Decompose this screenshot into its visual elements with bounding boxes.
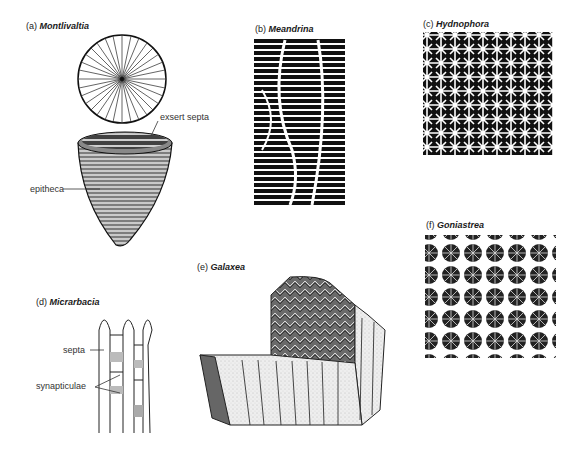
panel-b-label: (b) Meandrina: [255, 24, 314, 34]
figure-illustrations: [0, 0, 583, 454]
exsert-septa-label: exsert septa: [160, 112, 209, 122]
panel-a-genus: Montlivaltia: [40, 21, 90, 31]
panel-a-label: (a) Montlivaltia: [26, 21, 89, 31]
panel-f-genus: Goniastrea: [437, 220, 484, 230]
goniastrea-photo: [425, 235, 556, 358]
panel-b-genus: Meandrina: [269, 24, 314, 34]
hydnophora-photo: [423, 32, 553, 155]
panel-d-letter: (d): [36, 297, 47, 307]
panel-c-label: (c) Hydnophora: [423, 19, 489, 29]
panel-e-genus: Galaxea: [211, 262, 246, 272]
panel-b-letter: (b): [255, 24, 266, 34]
epitheca-label: epitheca: [30, 184, 64, 194]
panel-f-label: (f) Goniastrea: [426, 220, 484, 230]
panel-c-letter: (c): [423, 19, 434, 29]
exsert-septa-leader-line: [151, 121, 158, 136]
panel-a-letter: (a): [26, 21, 37, 31]
panel-e-letter: (e): [197, 262, 208, 272]
meandrina-photo: [254, 38, 345, 205]
panel-d-label: (d) Micrarbacia: [36, 297, 100, 307]
panel-c-genus: Hydnophora: [436, 19, 489, 29]
montlivaltia-calice-disc: [78, 35, 166, 123]
synapticulae-label: synapticulae: [36, 381, 86, 391]
panel-f-letter: (f): [426, 220, 435, 230]
panel-e-label: (e) Galaxea: [197, 262, 245, 272]
galaxea-block-diagram: [200, 277, 385, 425]
panel-d-genus: Micrarbacia: [50, 297, 100, 307]
micrarbacia-septa-drawing: [99, 320, 152, 433]
septa-label: septa: [63, 345, 85, 355]
